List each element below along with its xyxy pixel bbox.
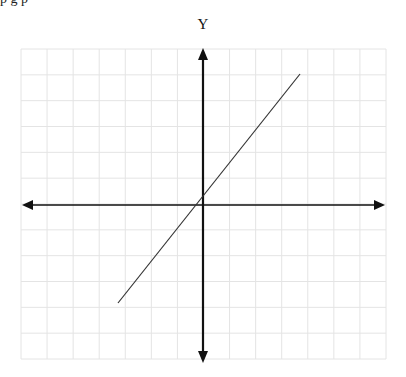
plotted-line	[118, 74, 300, 303]
y-axis-down-arrow-icon	[198, 351, 208, 363]
x-axis-left-arrow-icon	[22, 200, 33, 210]
y-axis-up-arrow-icon	[198, 48, 208, 60]
coordinate-plane	[0, 0, 406, 377]
x-axis-right-arrow-icon	[374, 200, 385, 210]
